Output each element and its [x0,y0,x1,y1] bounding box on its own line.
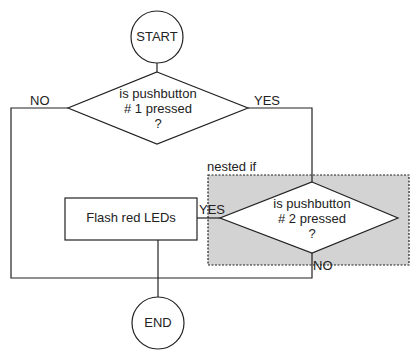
end-label: END [132,316,184,330]
decision2-yes-label: YES [199,203,225,217]
decision2-line2: # 2 pressed [262,212,362,226]
decision2-no-label: NO [313,259,333,273]
connector-decision1-yes [248,108,312,182]
start-label: START [131,30,183,44]
decision1-line2: # 1 pressed [108,102,208,116]
decision2-line1: is pushbutton [262,197,362,211]
nested-if-label: nested if [207,160,256,174]
decision1-line1: is pushbutton [108,87,208,101]
decision1-no-label: NO [30,94,50,108]
action-label: Flash red LEDs [65,211,197,225]
flowchart-canvas [0,0,419,355]
decision1-line3: ? [108,117,208,131]
decision2-line3: ? [262,227,362,241]
decision1-yes-label: YES [254,94,280,108]
